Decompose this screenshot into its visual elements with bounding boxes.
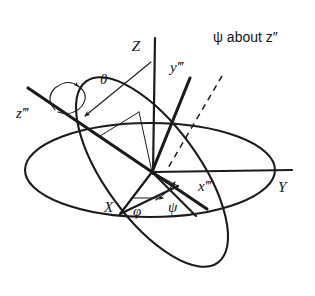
label-phi: φ [133, 203, 141, 219]
label-z-triple-prime: z‴ [15, 105, 30, 121]
label-Y: Y [278, 179, 288, 195]
theta-arc-path [85, 62, 151, 116]
tilted-plane-dashed-axis [168, 76, 222, 168]
dashed-axis-line [168, 76, 222, 168]
axis-Y-line [152, 170, 292, 172]
label-Z: Z [132, 38, 141, 54]
label-X: X [103, 199, 114, 215]
axis-Z-line [153, 38, 155, 174]
construction-line-to-node [100, 136, 152, 172]
label-psi-about-z: ψ about z″ [213, 29, 278, 45]
label-psi: ψ [168, 199, 178, 215]
angle-theta-arc [85, 62, 151, 116]
z-triple-prime-spin-arrow [50, 82, 85, 113]
label-x-triple-prime: x‴ [197, 178, 213, 194]
euler-angle-diagram: Z y‴ ψ about z″ θ z‴ X φ ψ x‴ Y [0, 0, 315, 296]
diagram-canvas: Z y‴ ψ about z″ θ z‴ X φ ψ x‴ Y [0, 0, 315, 296]
axis-Z [153, 38, 155, 174]
label-theta: θ [100, 71, 108, 87]
axis-Y [152, 170, 292, 172]
label-y-triple-prime: y‴ [168, 59, 185, 75]
